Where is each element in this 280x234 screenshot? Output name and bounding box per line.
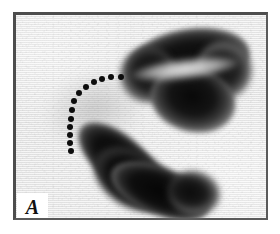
panel-label-text: A xyxy=(26,197,39,217)
figure-root: A xyxy=(0,0,280,234)
panel-label-box: A xyxy=(17,193,48,220)
plate-background xyxy=(16,15,266,218)
panel-frame: A xyxy=(13,12,268,220)
